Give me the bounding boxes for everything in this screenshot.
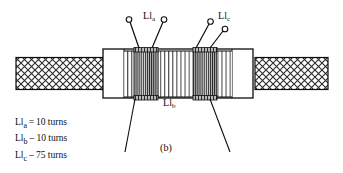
legend-value: 10 turns bbox=[36, 116, 67, 129]
label-llc: Llc bbox=[218, 11, 230, 22]
lead-llc-2-wire bbox=[210, 31, 223, 48]
legend-relation: – bbox=[27, 132, 36, 145]
winding-llc-shade bbox=[192, 51, 218, 97]
left-rod-body bbox=[16, 58, 106, 90]
tap-block-llc-bottom bbox=[193, 96, 217, 101]
lead-llc-1-terminal bbox=[208, 19, 214, 25]
winding-lla-shade bbox=[133, 51, 159, 97]
legend-row: Llc–75 turns bbox=[15, 149, 67, 165]
label-lla-subscript: a bbox=[152, 15, 155, 23]
turns-legend: Lla=10 turns Llb–10 turns Llc–75 turns bbox=[15, 116, 67, 165]
label-llb: Llb bbox=[163, 98, 176, 109]
label-llc-symbol: Ll bbox=[218, 10, 227, 21]
lead-lla-2-wire bbox=[152, 22, 163, 48]
lead-lla-1-terminal bbox=[126, 17, 132, 23]
figure-coil-assembly: Lla Llc Llb Lla=10 turns Llb–10 turns Ll… bbox=[0, 0, 343, 173]
figure-caption: (b) bbox=[160, 143, 172, 154]
label-llb-symbol: Ll bbox=[163, 97, 172, 108]
winding-llc bbox=[192, 51, 218, 97]
leader-line-left bbox=[125, 99, 135, 152]
left-rod bbox=[16, 58, 106, 90]
lead-lla-1-wire bbox=[130, 22, 139, 48]
tap-block-lla-bottom bbox=[134, 96, 158, 101]
label-llc-subscript: c bbox=[227, 15, 230, 23]
leader-line-right bbox=[210, 99, 230, 152]
legend-relation: – bbox=[27, 149, 36, 162]
legend-row: Lla=10 turns bbox=[15, 116, 67, 132]
tap-block-llc bbox=[193, 48, 217, 53]
legend-value: 75 turns bbox=[36, 149, 67, 162]
label-lla-symbol: Ll bbox=[143, 10, 152, 21]
legend-relation: = bbox=[27, 116, 36, 129]
legend-value: 10 turns bbox=[36, 132, 67, 145]
label-llb-subscript: b bbox=[172, 102, 176, 110]
legend-row: Llb–10 turns bbox=[15, 132, 67, 148]
tap-block-lla bbox=[134, 48, 158, 53]
winding-lla bbox=[133, 51, 159, 97]
right-rod-body bbox=[255, 58, 328, 90]
lead-lla-2-terminal bbox=[161, 17, 167, 23]
label-lla: Lla bbox=[143, 11, 155, 22]
leads-llc bbox=[196, 19, 228, 48]
lead-llc-1-wire bbox=[196, 24, 209, 48]
lead-llc-2-terminal bbox=[222, 26, 228, 32]
right-rod bbox=[255, 58, 328, 90]
